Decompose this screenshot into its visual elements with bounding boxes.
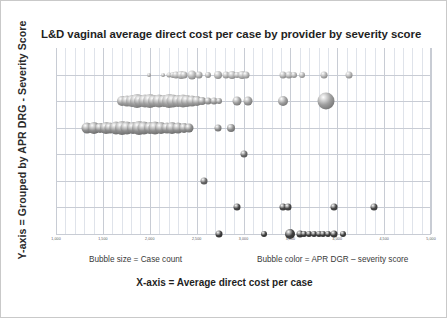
bubble-point [161,73,165,77]
gridline-vertical-minor [394,48,395,234]
chart-title: L&D vaginal average direct cost per case… [41,28,421,40]
gridline-vertical-major [384,48,385,234]
gridline-vertical-minor [422,48,423,234]
bubble-point [278,96,288,106]
gridline-vertical-minor [94,48,95,234]
x-axis-tick-labels: 1,0001,5002,0002,5003,0003,5004,0004,500… [56,237,431,247]
x-axis-tick-label: 1,000 [51,237,61,241]
caption-bubble-color: Bubble color = APR DGR – severity score [257,255,408,264]
x-axis-tick-label: 2,000 [145,237,155,241]
gridline-vertical-minor [112,48,113,234]
gridline-vertical-minor [319,48,320,234]
x-axis-tick-label: 2,500 [192,237,202,241]
gridline-vertical-minor [365,48,366,234]
bubble-point [244,97,253,106]
x-axis-tick-label: 1,500 [98,237,108,241]
x-axis-tick-label: 3,000 [239,237,249,241]
gridline-horizontal [56,181,431,182]
gridline-vertical-minor [253,48,254,234]
gridline-vertical-minor [75,48,76,234]
gridline-vertical-minor [309,48,310,234]
bubble-point [291,72,297,78]
gridline-vertical-minor [140,48,141,234]
gridline-vertical-minor [403,48,404,234]
bubble-point [243,71,250,78]
bubble-point [233,204,240,211]
gridline-vertical-minor [328,48,329,234]
bubble-point [205,72,211,78]
bubble-point [201,177,208,184]
gridline-vertical-minor [412,48,413,234]
bubble-point [185,123,194,132]
gridline-vertical-major [103,48,104,234]
x-axis-tick-label: 4,000 [333,237,343,241]
gridline-vertical-minor [159,48,160,234]
gridline-vertical-major [337,48,338,234]
bubble-point [284,204,291,211]
x-axis-tick-label: 4,500 [379,237,389,241]
plot-right-edge [430,48,431,234]
bubble-point [299,72,305,78]
bubble-point [196,71,203,78]
bubble-point [215,124,222,131]
bubble-point [214,71,222,79]
caption-bubble-size: Bubble size = Case count [89,255,182,264]
bubble-point [216,98,222,104]
bubble-point [370,204,377,211]
bubble-point [227,124,235,132]
bubble-point [321,71,328,78]
gridline-vertical-minor [84,48,85,234]
plot-area [56,48,431,234]
bubble-point [147,73,151,77]
slide-canvas: Y-axis = Grouped by APR DRG - Severity S… [0,0,447,318]
bubble-point [318,93,335,110]
bubble-point [346,71,353,78]
gridline-vertical-minor [262,48,263,234]
gridline-vertical-minor [272,48,273,234]
bubble-point [232,97,241,106]
bubble-point [330,204,337,211]
y-axis-caption: Y-axis = Grouped by APR DRG - Severity S… [11,15,33,265]
gridline-vertical-minor [65,48,66,234]
x-axis-tick-label: 3,500 [286,237,296,241]
gridline-vertical-major [431,48,432,234]
x-axis-tick-label: 5,000 [426,237,436,241]
gridline-vertical-minor [356,48,357,234]
gridline-vertical-minor [122,48,123,234]
bubble-point [240,151,247,158]
gridline-horizontal [56,234,431,235]
gridline-vertical-minor [131,48,132,234]
x-axis-caption: X-axis = Average direct cost per case [1,277,447,288]
gridline-vertical-major [56,48,57,234]
